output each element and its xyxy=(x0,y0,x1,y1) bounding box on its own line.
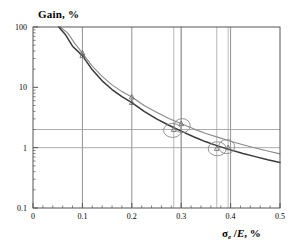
y-tick-label: 1 xyxy=(2,143,27,152)
x-tick-label: 0.2 xyxy=(127,212,137,221)
x-tick-label: 0.5 xyxy=(275,212,285,221)
curve-lower-curve xyxy=(59,27,280,162)
y-tick-label: 0.1 xyxy=(2,204,27,213)
x-tick-label: 0.4 xyxy=(226,212,236,221)
x-tick-label: 0 xyxy=(31,212,35,221)
plot-area xyxy=(0,0,299,249)
chart-title: Gain, % xyxy=(38,8,79,20)
x-axis-label: σe /E, % xyxy=(222,227,261,241)
chart-figure: Gain, % σe /E, % 1001010.100.10.20.30.40… xyxy=(0,0,299,249)
y-tick-label: 100 xyxy=(2,23,27,32)
highlight-circle-right-a xyxy=(208,142,226,156)
y-tick-label: 10 xyxy=(2,83,27,92)
x-tick-label: 0.1 xyxy=(77,212,87,221)
plot-frame xyxy=(33,27,280,208)
x-tick-label: 0.3 xyxy=(176,212,186,221)
curve-upper-curve xyxy=(60,27,280,154)
